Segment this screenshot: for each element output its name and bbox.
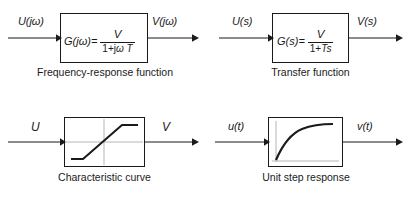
formula-lhs-frequency-response: G(jω)= bbox=[64, 36, 97, 47]
output-arrowhead-transfer-function bbox=[396, 34, 403, 42]
input-label-characteristic-curve: U bbox=[31, 121, 40, 133]
block-diagram-figure: U(jω) V(jω) G(jω)= V 1+jω T Frequency-re… bbox=[0, 0, 409, 199]
output-label-transfer-function: V(s) bbox=[357, 16, 377, 27]
caption-unit-step-response: Unit step response bbox=[245, 172, 367, 183]
diagram-canvas bbox=[0, 0, 409, 199]
formula-denominator-transfer-function: 1+Ts bbox=[308, 43, 334, 54]
denominator-suffix-transfer-function: Ts bbox=[321, 43, 331, 54]
caption-transfer-function: Transfer function bbox=[257, 67, 364, 78]
denominator-suffix-frequency-response: ω T bbox=[116, 43, 133, 54]
output-arrowhead-characteristic-curve bbox=[192, 138, 199, 146]
formula-fraction-frequency-response: V 1+jω T bbox=[100, 29, 134, 54]
formula-denominator-frequency-response: 1+jω T bbox=[100, 43, 134, 54]
denominator-prefix-frequency-response: 1+j bbox=[102, 43, 116, 54]
caption-characteristic-curve: Characteristic curve bbox=[38, 172, 171, 183]
input-label-transfer-function: U(s) bbox=[232, 16, 252, 27]
input-label-frequency-response: U(jω) bbox=[18, 16, 44, 27]
formula-lhs-transfer-function: G(s)= bbox=[277, 36, 305, 47]
output-label-unit-step-response: v(t) bbox=[357, 121, 372, 132]
caption-frequency-response: Frequency-response function bbox=[37, 67, 171, 78]
output-label-frequency-response: V(jω) bbox=[152, 16, 177, 27]
formula-numerator-frequency-response: V bbox=[111, 29, 125, 42]
formula-frequency-response: G(jω)= V 1+jω T bbox=[64, 29, 135, 54]
formula-transfer-function: G(s)= V 1+Ts bbox=[277, 29, 333, 54]
output-arrowhead-frequency-response bbox=[192, 34, 199, 42]
formula-numerator-transfer-function: V bbox=[314, 29, 328, 42]
denominator-prefix-transfer-function: 1+ bbox=[310, 43, 321, 54]
output-label-characteristic-curve: V bbox=[162, 121, 170, 133]
input-label-unit-step-response: u(t) bbox=[228, 121, 244, 132]
formula-fraction-transfer-function: V 1+Ts bbox=[308, 29, 334, 54]
output-arrowhead-unit-step-response bbox=[396, 138, 403, 146]
